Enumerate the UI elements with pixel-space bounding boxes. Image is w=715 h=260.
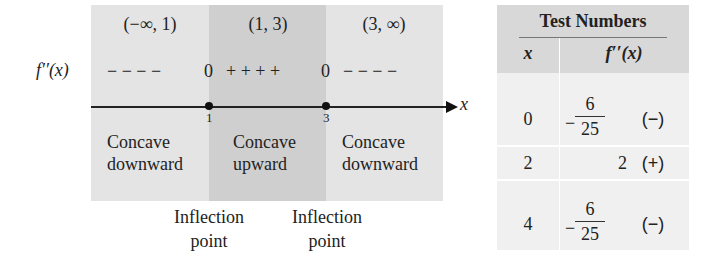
- column-divider: [559, 38, 560, 250]
- interval-label-2: (1, 3): [210, 14, 326, 35]
- cell-sign: (+): [633, 153, 673, 174]
- cell-sign: (−): [633, 214, 673, 235]
- sign-segment-3: − − − −: [343, 61, 397, 82]
- interval-label-3: (3, ∞): [326, 14, 442, 35]
- tick-label-3: 3: [323, 110, 330, 126]
- concavity-label-1: Concave downward: [107, 131, 183, 175]
- zero-mark-1: 0: [204, 61, 213, 82]
- point-dot-1: [205, 102, 213, 110]
- axis-label: x: [460, 94, 468, 115]
- point-dot-3: [322, 102, 330, 110]
- test-numbers-table: Test Numbers x f′′(x) 0 − 6 25 (−) 2 2 (…: [497, 5, 689, 250]
- inflection-label-2: Inflection point: [282, 205, 372, 253]
- inflection-label-1: Inflection point: [164, 205, 254, 253]
- number-line-axis: [91, 106, 450, 108]
- cell-value: 2: [597, 153, 627, 174]
- axis-arrow-icon: [446, 101, 458, 113]
- interval-label-1: (−∞, 1): [92, 14, 208, 35]
- concavity-label-2: Concave upward: [233, 131, 296, 175]
- tick-label-1: 1: [206, 110, 213, 126]
- sign-segment-2: + + + +: [226, 61, 280, 82]
- zero-mark-2: 0: [321, 61, 330, 82]
- column-header-x: x: [497, 43, 559, 64]
- row-divider: [497, 145, 689, 147]
- cell-x: 4: [497, 214, 559, 235]
- sign-segment-1: − − − −: [107, 61, 161, 82]
- cell-x: 2: [497, 153, 559, 174]
- cell-x: 0: [497, 109, 559, 130]
- column-header-f: f′′(x): [559, 43, 689, 64]
- concavity-label-3: Concave downward: [342, 131, 418, 175]
- header-rule: [519, 37, 667, 38]
- second-derivative-label: f′′(x): [36, 60, 69, 81]
- row-divider: [497, 179, 689, 181]
- table-title: Test Numbers: [497, 11, 689, 32]
- cell-sign: (−): [633, 109, 673, 130]
